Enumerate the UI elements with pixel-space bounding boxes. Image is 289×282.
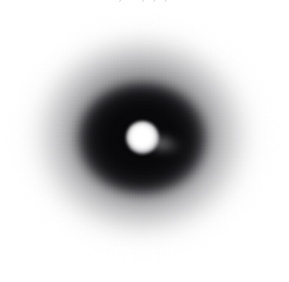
direct-beam-spot [126, 121, 159, 154]
diffraction-figure: . , . , , , . [0, 0, 289, 282]
clipped-header-text: . , . , , , . [0, 0, 289, 2]
clipped-top-text-strip: . , . , , , . [0, 0, 289, 7]
